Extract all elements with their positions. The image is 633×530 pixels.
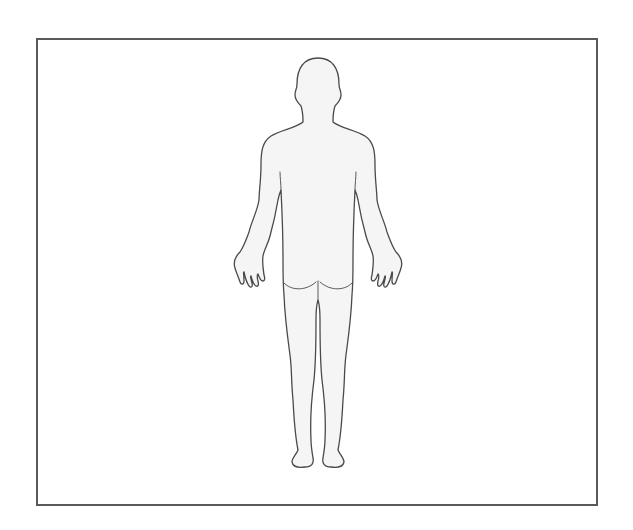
body-silhouette [234,58,401,467]
body-outline-figure [0,0,633,530]
